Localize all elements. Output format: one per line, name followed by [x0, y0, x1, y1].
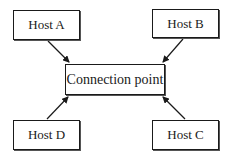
- host-b-label: Host B: [167, 16, 203, 32]
- host-a-label: Host A: [28, 17, 64, 33]
- connection-point-node: Connection point: [65, 64, 165, 95]
- host-d-label: Host D: [28, 127, 65, 143]
- arrow-host-d-to-hub: [47, 97, 68, 119]
- host-a-node: Host A: [13, 10, 80, 40]
- host-c-node: Host C: [152, 120, 219, 150]
- arrow-host-c-to-hub: [163, 97, 185, 119]
- arrow-host-b-to-hub: [163, 39, 183, 62]
- host-c-label: Host C: [167, 127, 203, 143]
- arrow-host-a-to-hub: [48, 41, 69, 62]
- host-d-node: Host D: [13, 120, 80, 150]
- host-b-node: Host B: [152, 9, 219, 38]
- connection-point-label: Connection point: [67, 72, 164, 88]
